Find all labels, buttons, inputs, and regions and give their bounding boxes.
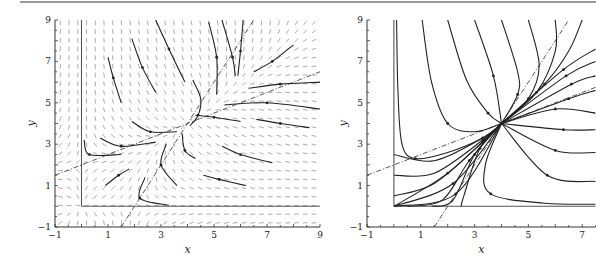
x-tick-label: 7 — [579, 230, 585, 240]
trajectory-marker — [570, 83, 573, 86]
trajectory-marker — [446, 122, 449, 125]
trajectory-from-top-4 — [475, 20, 502, 124]
trajectory-from-right-9 — [484, 124, 596, 205]
right-chart-phase-portrait: −11357−113579xy — [0, 0, 596, 262]
trajectory-from-right-6 — [502, 124, 596, 131]
trajectory-marker — [565, 74, 568, 77]
trajectory-marker — [479, 147, 482, 150]
y-tick-label: 9 — [357, 15, 363, 25]
x-tick-label: 5 — [526, 230, 532, 240]
y-tick-label: 1 — [357, 181, 363, 191]
y-axis-label: y — [337, 120, 350, 128]
trajectory-marker — [492, 74, 495, 77]
x-axis-label: x — [478, 243, 485, 256]
trajectory-marker — [516, 93, 519, 96]
trajectory-from-right-4 — [502, 90, 596, 123]
y-tick-label: −1 — [350, 222, 363, 232]
trajectory-marker — [487, 112, 490, 115]
trajectory-from-top-3 — [448, 20, 502, 124]
trajectory-marker — [562, 128, 565, 131]
trajectory-marker — [562, 68, 565, 71]
y-tick-label: 7 — [357, 56, 363, 66]
trajectory-marker — [489, 192, 492, 195]
trajectory-from-top-5 — [502, 20, 520, 124]
x-tick-label: 1 — [418, 230, 424, 240]
trajectory-from-left-3 — [394, 124, 502, 196]
trajectory-marker — [473, 153, 476, 156]
trajectory-marker — [554, 149, 557, 152]
x-tick-label: 3 — [472, 230, 478, 240]
trajectory-marker — [546, 174, 549, 177]
y-tick-label: 5 — [357, 98, 363, 108]
trajectory-marker — [446, 172, 449, 175]
trajectory-marker — [567, 97, 570, 100]
y-tick-label: 3 — [357, 139, 363, 149]
trajectory-marker — [554, 108, 557, 111]
